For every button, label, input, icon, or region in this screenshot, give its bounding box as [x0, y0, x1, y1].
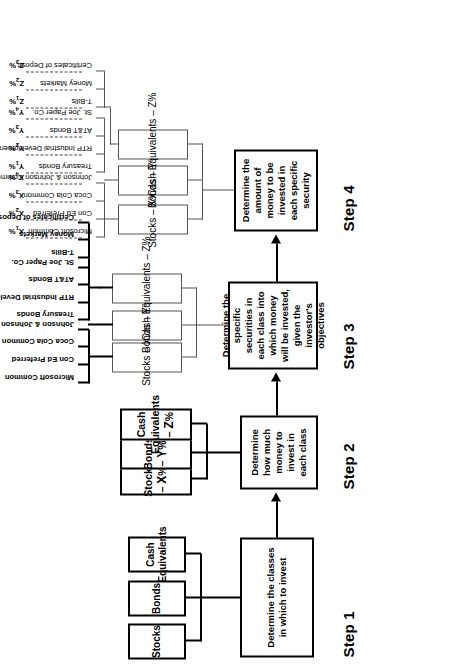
arrow-2-3-head	[271, 372, 281, 381]
s4-security-label: Con Ed Preferred	[33, 208, 92, 216]
s3-security-label: Treasury Bonds	[17, 309, 74, 317]
s3-bonds-stem	[88, 323, 113, 325]
step-4-text: Determine the amount of money to be inve…	[240, 156, 311, 224]
step-4-box: Determine the amount of money to be inve…	[234, 149, 318, 231]
arrow-1-2-line	[276, 501, 278, 537]
arrow-2-3-line	[276, 381, 278, 415]
step4-drop-b	[188, 179, 203, 180]
s4-security-pct: Z2%	[9, 76, 24, 86]
step2-drop-b	[192, 451, 207, 453]
class-box-bonds: Bonds	[128, 580, 186, 616]
s4-security-pct: Y4%	[9, 105, 24, 115]
s4-security-pct: X3%	[9, 188, 24, 198]
s3-bonds-tick	[78, 301, 89, 303]
step-3-label: Step 3	[340, 323, 357, 369]
step2-drop-a	[192, 477, 207, 479]
s4-stocks-bus	[104, 183, 105, 237]
arrow-3-4-head	[271, 234, 281, 243]
arrow-3-4-line	[276, 243, 278, 281]
s3-cash-tick	[78, 238, 89, 240]
step-2-text: Determine how much money to invest in ea…	[249, 422, 308, 482]
s3-stocks-tick	[78, 328, 89, 330]
s4-dash-leader	[26, 107, 82, 108]
s4-security-pct: X1%	[9, 224, 24, 234]
diagram-page: Step 1 Determine the classes in which to…	[0, 0, 450, 667]
s3-security-label: Coca Cola Common	[2, 336, 74, 344]
arrow-1-2-head	[271, 492, 281, 501]
step2-drop-c	[192, 422, 207, 424]
s3-stocks-bus	[88, 329, 90, 383]
s4-stocks-tick	[96, 200, 105, 201]
s4-cash-riser	[104, 106, 111, 107]
s4-security-label: Coca Cola Common	[24, 190, 92, 198]
s3-stocks-tick	[78, 345, 89, 347]
s3-class-box-cash-equivalents: Cash Equivalents – Z%	[112, 273, 182, 303]
class-label: Stocks	[151, 625, 164, 658]
s4-bonds-tick	[96, 135, 105, 136]
step-2-label: Step 2	[340, 443, 357, 489]
step3-drop-b	[182, 324, 197, 325]
s4-bonds-stem	[104, 179, 119, 180]
s4-security-label: T-Bills	[71, 96, 92, 104]
s4-cash-stem	[110, 143, 119, 144]
flowchart-stage: Step 1 Determine the classes in which to…	[0, 0, 450, 667]
s4-security-pct: Y1%	[9, 159, 24, 169]
s4-security-pct: Z1%	[9, 94, 24, 104]
s4-security-label: Treasury Bonds	[39, 161, 92, 169]
s3-cash-riser	[88, 286, 101, 288]
s4-bonds-tick	[96, 117, 105, 118]
step1-drop-b	[186, 596, 201, 598]
s4-cash-tick	[96, 106, 105, 107]
s4-cash-jog	[110, 107, 111, 144]
s4-dash-leader	[26, 71, 82, 72]
step1-drop-c	[186, 552, 201, 554]
s4-cash-tick	[96, 88, 105, 89]
s4-class-label: Cash Equivalents – Z%	[147, 92, 160, 196]
s4-security-label: AT&T Bonds	[50, 125, 92, 133]
step3-drop-c	[182, 287, 197, 288]
s4-bonds-tick	[96, 153, 105, 154]
step-2-box: Determine how much money to invest in ea…	[240, 415, 318, 489]
s4-dash-leader	[26, 201, 82, 202]
alloc-label: Cash Equivalents – Z%	[135, 395, 176, 454]
step4-bus	[202, 143, 203, 219]
class-box-stocks: Stocks	[128, 623, 186, 659]
s3-security-label: T-Bills	[51, 247, 74, 255]
s3-cash-tick	[78, 221, 89, 223]
step3-stem	[196, 324, 229, 325]
s3-cash-jog	[88, 258, 90, 288]
s4-dash-leader	[26, 172, 82, 173]
s4-dash-leader	[26, 237, 82, 238]
step4-drop-c	[188, 143, 203, 144]
step-3-text: Determine the specific securities in eac…	[220, 288, 327, 362]
s3-security-label: St. Joe Paper Co.	[12, 257, 74, 265]
s3-security-label: AT&T Bonds	[29, 274, 74, 282]
class-label: Cash Equivalents	[145, 526, 170, 582]
s4-stocks-tick	[96, 218, 105, 219]
s4-security-label: Certificates of Deposit	[18, 60, 92, 68]
s4-security-label: St. Joe Paper Co.	[32, 107, 92, 115]
s4-bonds-tick	[96, 171, 105, 172]
s3-security-label: Microsoft Common	[5, 372, 74, 380]
s3-bonds-tick	[78, 318, 89, 320]
step2-stem	[206, 451, 241, 453]
s3-cash-stem	[100, 286, 113, 288]
s3-security-label: Johnson & Johnson Common	[0, 319, 74, 327]
step4-stem	[202, 189, 235, 190]
step1-drop-a	[186, 639, 201, 641]
step-1-label: Step 1	[340, 611, 357, 657]
class-label: Bonds	[151, 582, 164, 613]
s4-dash-leader	[26, 89, 82, 90]
step4-drop-a	[188, 218, 203, 219]
s4-dash-leader	[26, 219, 82, 220]
class-box-cash-equivalents: Cash Equivalents	[128, 536, 186, 572]
s4-dash-leader	[26, 154, 82, 155]
step-1-text: Determine the classes in which to invest	[265, 545, 289, 649]
s4-security-pct: Y2%	[9, 141, 24, 151]
step-4-label: Step 4	[340, 185, 357, 231]
s4-stocks-tick	[96, 236, 105, 237]
s4-stocks-stem	[104, 218, 119, 219]
s4-class-box-stocks: Stocks – X%	[118, 204, 188, 234]
s4-security-pct: Z3%	[9, 58, 24, 68]
step-1-box: Determine the classes in which to invest	[240, 537, 314, 657]
